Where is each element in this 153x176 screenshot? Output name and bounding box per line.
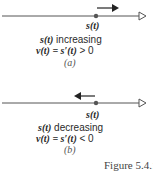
arrow-left-icon	[74, 92, 81, 100]
trend-word: decreasing	[51, 122, 103, 133]
point-label-b: s(t)	[86, 110, 99, 120]
caption-b: (b)	[64, 145, 76, 155]
description-b: s(t) decreasing	[38, 123, 103, 133]
figure-graphics	[0, 0, 153, 176]
position-dot-icon	[94, 101, 98, 105]
velocity-b: v(t) = s′(t) < 0	[36, 134, 94, 144]
velocity-a: v(t) = s′(t) > 0	[36, 46, 94, 56]
fn-label: s(t)	[40, 34, 53, 45]
axis-arrowhead-icon	[139, 12, 146, 20]
inequality: < 0	[77, 133, 94, 144]
description-a: s(t) increasing	[40, 35, 102, 45]
point-label-a: s(t)	[86, 21, 99, 31]
position-dot-icon	[94, 14, 98, 18]
caption-a: (a)	[64, 58, 76, 68]
axis-arrowhead-icon	[139, 99, 146, 107]
number-line-b	[2, 92, 146, 107]
fn-label: s(t)	[38, 122, 51, 133]
trend-word: increasing	[53, 34, 101, 45]
figure-label: Figure 5.4.1	[104, 160, 153, 170]
velocity-expr: v(t) = s′(t)	[36, 45, 77, 56]
number-line-a	[2, 4, 146, 20]
inequality: > 0	[77, 45, 94, 56]
velocity-expr: v(t) = s′(t)	[36, 133, 77, 144]
arrow-right-icon	[112, 4, 119, 12]
